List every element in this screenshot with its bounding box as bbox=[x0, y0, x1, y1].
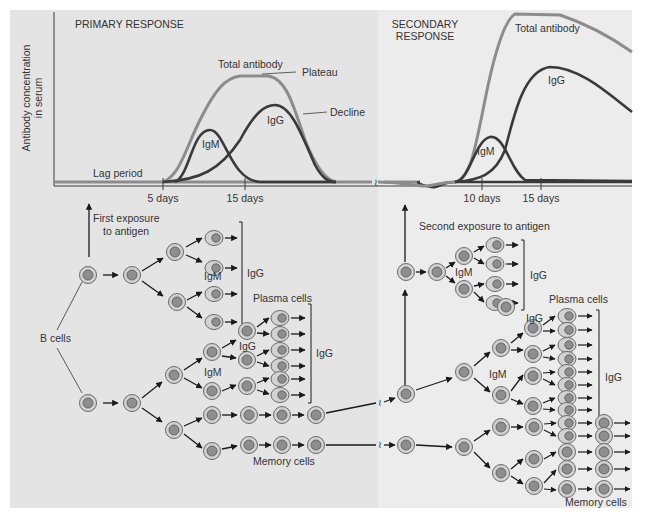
first-exposure-label-line1: First exposure bbox=[93, 212, 160, 224]
secondary-igg-label-2: IgG bbox=[526, 312, 543, 324]
primary-igg-bracket-label-1: IgG bbox=[247, 267, 264, 279]
first-exposure-label-line2: to antigen bbox=[103, 225, 149, 237]
lag-period-label: Lag period bbox=[93, 167, 143, 179]
tick-15-days-secondary: 15 days bbox=[523, 192, 560, 204]
tick-10-days: 10 days bbox=[464, 192, 501, 204]
secondary-memory-cells-label: Memory cells bbox=[565, 496, 627, 508]
secondary-igm-label-1: IgM bbox=[455, 266, 473, 278]
primary-igm-label: IgM bbox=[202, 138, 220, 150]
y-axis-label-line1: Antibody concentration bbox=[20, 44, 32, 151]
plateau-label: Plateau bbox=[302, 66, 338, 78]
tick-5-days: 5 days bbox=[148, 192, 179, 204]
svg-text:≀: ≀ bbox=[378, 439, 382, 450]
second-exposure-label: Second exposure to antigen bbox=[419, 220, 550, 232]
secondary-igg-label: IgG bbox=[548, 74, 565, 86]
y-axis-label-line2: in serum bbox=[32, 78, 44, 119]
primary-igm-label-1: IgM bbox=[204, 270, 222, 282]
primary-response-title: PRIMARY RESPONSE bbox=[75, 18, 184, 30]
b-cells-label: B cells bbox=[40, 332, 71, 344]
primary-igg-bracket-label-2: IgG bbox=[316, 347, 333, 359]
secondary-igm-label: IgM bbox=[477, 145, 495, 157]
antibody-response-diagram: Antibody concentration in serum PRIMARY … bbox=[0, 0, 669, 522]
primary-total-antibody-label: Total antibody bbox=[218, 58, 284, 70]
secondary-igg-bracket-label-1: IgG bbox=[530, 269, 547, 281]
primary-igg-label: IgG bbox=[267, 114, 284, 126]
secondary-plasma-cells-label: Plasma cells bbox=[549, 293, 608, 305]
svg-text:≀: ≀ bbox=[378, 397, 382, 408]
primary-memory-cells-label: Memory cells bbox=[253, 455, 315, 467]
secondary-response-title-line1: SECONDARY bbox=[392, 18, 458, 30]
decline-label: Decline bbox=[330, 106, 365, 118]
b-cell bbox=[80, 267, 97, 284]
primary-plasma-cells-label: Plasma cells bbox=[253, 292, 312, 304]
secondary-total-antibody-label: Total antibody bbox=[515, 22, 581, 34]
primary-igm-label-2: IgM bbox=[204, 366, 222, 378]
primary-igg-label-2: IgG bbox=[239, 340, 256, 352]
secondary-response-title-line2: RESPONSE bbox=[396, 30, 454, 42]
secondary-igm-label-2: IgM bbox=[489, 368, 507, 380]
secondary-igg-bracket-label-2: IgG bbox=[605, 371, 622, 383]
axis-break-mark: ≀ bbox=[374, 177, 378, 188]
tick-15-days-primary: 15 days bbox=[227, 192, 264, 204]
